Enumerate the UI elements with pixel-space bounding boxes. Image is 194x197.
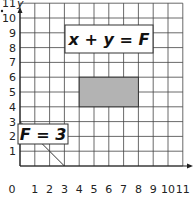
equation-label: x + y = F bbox=[68, 30, 150, 49]
coordinate-grid-diagram: 01234567891011 1234567891011 y x + y = F… bbox=[0, 0, 194, 197]
svg-text:3: 3 bbox=[61, 183, 68, 196]
svg-text:4: 4 bbox=[76, 183, 83, 196]
dot-marker bbox=[1, 10, 3, 12]
svg-text:1: 1 bbox=[31, 183, 38, 196]
svg-text:9: 9 bbox=[9, 27, 16, 40]
shaded-rectangle bbox=[79, 77, 138, 107]
y-axis-ticks: 1234567891011 bbox=[2, 0, 16, 158]
svg-text:0: 0 bbox=[9, 183, 16, 196]
svg-text:10: 10 bbox=[2, 12, 16, 25]
svg-text:4: 4 bbox=[9, 101, 16, 114]
value-label: F = 3 bbox=[20, 125, 67, 144]
svg-text:7: 7 bbox=[9, 56, 16, 69]
svg-text:5: 5 bbox=[9, 86, 16, 99]
svg-text:10: 10 bbox=[161, 183, 175, 196]
svg-text:7: 7 bbox=[120, 183, 127, 196]
svg-text:5: 5 bbox=[91, 183, 98, 196]
svg-text:3: 3 bbox=[9, 116, 16, 129]
svg-text:9: 9 bbox=[150, 183, 157, 196]
svg-text:6: 6 bbox=[9, 71, 16, 84]
x-axis-ticks: 01234567891011 bbox=[9, 183, 190, 196]
svg-text:8: 8 bbox=[135, 183, 142, 196]
svg-text:11: 11 bbox=[2, 0, 16, 10]
x-axis-arrow-icon bbox=[187, 164, 193, 169]
svg-text:1: 1 bbox=[9, 145, 16, 158]
y-axis-label: y bbox=[16, 0, 24, 10]
svg-text:2: 2 bbox=[46, 183, 53, 196]
svg-text:2: 2 bbox=[9, 130, 16, 143]
svg-text:11: 11 bbox=[176, 183, 190, 196]
svg-text:8: 8 bbox=[9, 42, 16, 55]
svg-text:6: 6 bbox=[105, 183, 112, 196]
